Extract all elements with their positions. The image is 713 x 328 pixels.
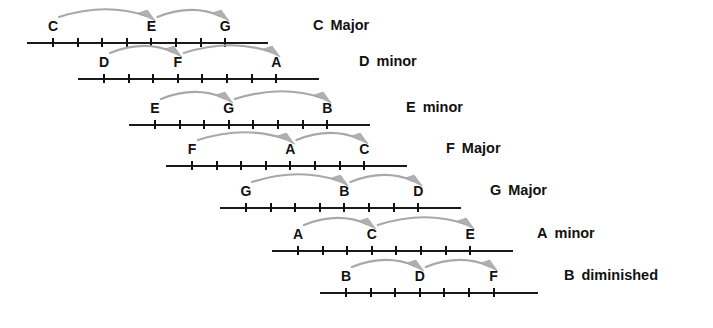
chord-name: FMajor (446, 140, 501, 157)
scale-line (272, 250, 513, 252)
scale-tick (103, 74, 105, 83)
chord-name: Bdiminished (564, 267, 658, 284)
interval-arc (157, 10, 220, 17)
interval-arc (304, 218, 367, 225)
scale-tick (468, 288, 470, 297)
chord-quality: Major (508, 182, 547, 198)
note-label: F (188, 141, 197, 157)
chord-quality: Major (330, 17, 369, 33)
note-label: A (293, 226, 303, 242)
note-label: F (174, 54, 183, 70)
chord-row: ACEAminor (0, 212, 713, 259)
scale-tick (394, 288, 396, 297)
chord-root: D (359, 53, 369, 69)
interval-arc (161, 92, 224, 99)
chord-row: DFADminor (0, 40, 713, 87)
scale-line (320, 292, 538, 294)
scale-tick (343, 203, 345, 212)
scale-tick (201, 74, 203, 83)
scale-tick (128, 74, 130, 83)
scale-tick (393, 203, 395, 212)
interval-arc (110, 46, 173, 53)
chord-row: GBDGMajor (0, 169, 713, 216)
chord-row: FACFMajor (0, 127, 713, 174)
chord-root: E (406, 99, 416, 115)
scale-tick (493, 288, 495, 297)
interval-arc (426, 260, 489, 267)
chord-name: Dminor (359, 53, 417, 70)
scale-line (129, 124, 370, 126)
chord-name: GMajor (490, 182, 547, 199)
chord-name: Eminor (406, 99, 463, 116)
interval-arc (350, 175, 413, 182)
interval-arc (296, 133, 359, 140)
chord-row: BDFBdiminished (0, 254, 713, 301)
chord-quality: minor (554, 225, 594, 241)
interval-arc (184, 45, 271, 53)
note-label: F (489, 268, 498, 284)
note-label: B (341, 268, 351, 284)
scale-tick (152, 74, 154, 83)
chord-quality: diminished (581, 267, 658, 283)
note-label: B (322, 100, 332, 116)
chord-root: B (564, 267, 574, 283)
chord-quality: minor (376, 53, 416, 69)
note-label: D (99, 54, 109, 70)
chord-quality: minor (423, 99, 463, 115)
note-label: A (271, 54, 281, 70)
scale-tick (294, 203, 296, 212)
scale-tick (368, 203, 370, 212)
scale-tick (443, 288, 445, 297)
scale-tick (270, 203, 272, 212)
note-label: G (223, 100, 234, 116)
note-label: D (415, 268, 425, 284)
chord-root: F (446, 140, 455, 156)
note-label: E (147, 18, 156, 34)
note-label: A (285, 141, 295, 157)
scale-tick (177, 74, 179, 83)
note-label: G (241, 183, 252, 199)
chord-row: EGBEminor (0, 86, 713, 133)
scale-tick (226, 74, 228, 83)
scale-tick (275, 74, 277, 83)
chord-name: CMajor (313, 17, 369, 34)
note-label: D (413, 183, 423, 199)
diatonic-triads-diagram: CEGCMajorDFADminorEGBEminorFACFMajorGBDG… (0, 0, 713, 328)
note-label: E (466, 226, 475, 242)
interval-arc (252, 174, 339, 182)
interval-arc (352, 260, 415, 267)
interval-arc (378, 217, 465, 225)
chord-name: Aminor (537, 225, 595, 242)
chord-quality: Major (462, 140, 501, 156)
note-label: C (48, 18, 58, 34)
scale-tick (245, 203, 247, 212)
chord-root: G (490, 182, 501, 198)
scale-tick (319, 203, 321, 212)
note-label: C (367, 226, 377, 242)
scale-tick (251, 74, 253, 83)
scale-line (78, 78, 319, 80)
note-label: C (359, 141, 369, 157)
scale-line (166, 165, 407, 167)
interval-arc (235, 91, 322, 99)
chord-root: A (537, 225, 547, 241)
note-label: G (220, 18, 231, 34)
scale-tick (345, 288, 347, 297)
scale-tick (419, 288, 421, 297)
interval-arc (198, 132, 285, 140)
scale-tick (417, 203, 419, 212)
scale-tick (370, 288, 372, 297)
interval-arc (59, 9, 146, 17)
scale-line (220, 207, 461, 209)
chord-root: C (313, 17, 323, 33)
note-label: E (150, 100, 159, 116)
note-label: B (339, 183, 349, 199)
